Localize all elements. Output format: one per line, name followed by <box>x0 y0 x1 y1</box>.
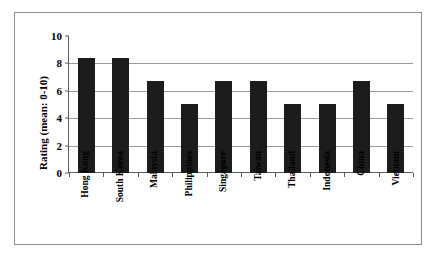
x-tick-label: Vietnam <box>390 151 402 217</box>
x-label-slot: Malaysia <box>137 173 172 243</box>
y-tick-label: 10 <box>51 30 62 42</box>
x-label-slot: Thailand <box>275 173 310 243</box>
x-tick-label: South Korea <box>114 151 126 217</box>
x-label-slot: Singapore <box>206 173 241 243</box>
x-axis-labels: Hong KongSouth KoreaMalaysiaPhilippinesS… <box>68 173 413 243</box>
x-label-slot: Taiwan <box>241 173 276 243</box>
x-tick-label: Taiwan <box>252 151 264 217</box>
y-tick-label: 0 <box>57 167 63 179</box>
y-tick-label: 2 <box>57 140 63 152</box>
x-tick-label: Thailand <box>286 151 298 217</box>
y-tick-label: 8 <box>57 57 63 69</box>
y-axis-title: Rating (mean: 0-10) <box>35 48 51 198</box>
x-tick-label: Indonesia <box>321 151 333 217</box>
x-label-slot: Vietnam <box>379 173 414 243</box>
x-label-slot: Indonesia <box>310 173 345 243</box>
chart-frame: Rating (mean: 0-10) 0246810 Hong KongSou… <box>14 12 422 245</box>
y-tick-label: 6 <box>57 85 63 97</box>
x-label-slot: Philippines <box>172 173 207 243</box>
x-label-slot: Hong Kong <box>68 173 103 243</box>
x-tick-mark <box>413 173 414 177</box>
x-tick-label: Malaysia <box>148 151 160 217</box>
y-tick-label: 4 <box>57 112 63 124</box>
x-tick-label: Hong Kong <box>79 151 91 217</box>
x-tick-label: Philippines <box>183 151 195 217</box>
x-tick-label: Singapore <box>217 151 229 217</box>
x-label-slot: South Korea <box>103 173 138 243</box>
x-tick-label: China <box>355 151 367 217</box>
x-label-slot: China <box>344 173 379 243</box>
